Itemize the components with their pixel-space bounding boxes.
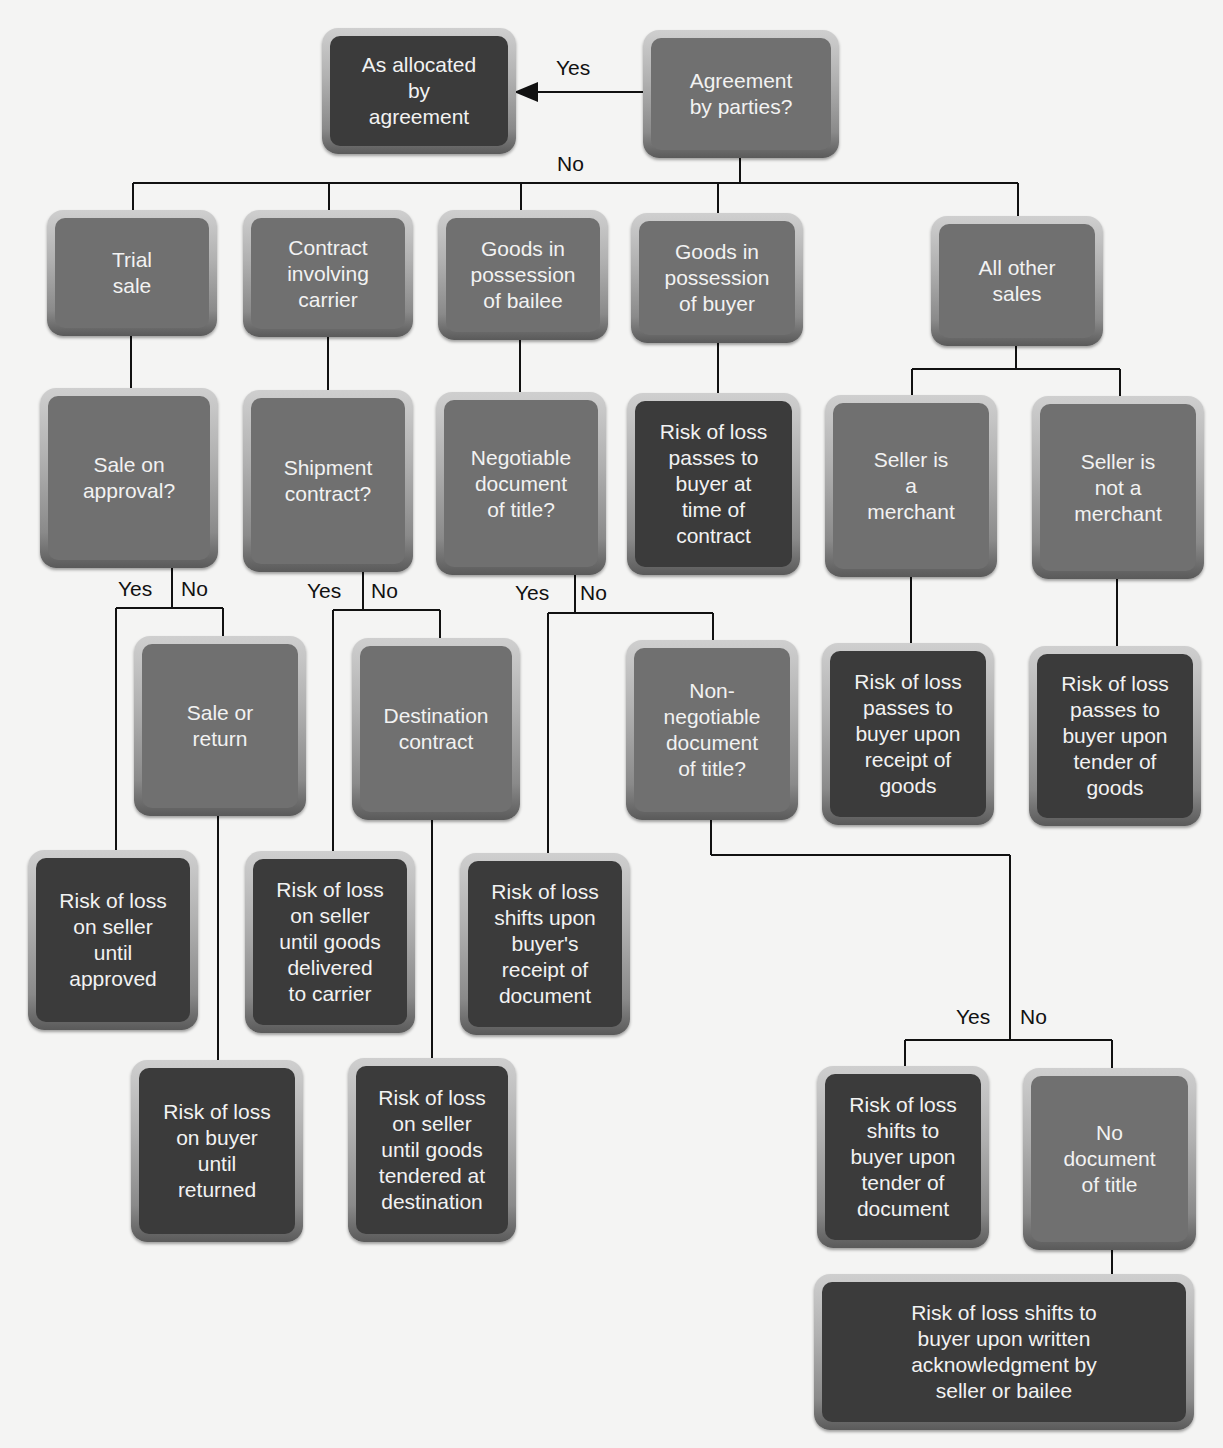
node-goods-buyer: Goods in possession of buyer	[631, 213, 803, 343]
node-risk-seller-until-carrier: Risk of loss on seller until goods deliv…	[245, 851, 415, 1033]
node-risk-time-of-contract: Risk of loss passes to buyer at time of …	[627, 393, 800, 575]
node-risk-buyer-until-returned: Risk of loss on buyer until returned	[131, 1060, 303, 1242]
node-risk-receipt-of-document: Risk of loss shifts upon buyer's receipt…	[460, 853, 630, 1035]
node-sale-or-return: Sale or return	[134, 636, 306, 816]
label-yes: Yes	[956, 1005, 990, 1029]
node-trial-sale: Trial sale	[47, 210, 217, 336]
node-contract-carrier: Contract involving carrier	[243, 210, 413, 337]
label-no: No	[181, 577, 208, 601]
node-negotiable-document: Negotiable document of title?	[436, 392, 606, 575]
node-no-document-of-title: No document of title	[1023, 1068, 1196, 1250]
node-seller-merchant: Seller is a merchant	[825, 395, 997, 577]
label-yes: Yes	[118, 577, 152, 601]
node-as-allocated: As allocated by agreement	[322, 28, 516, 154]
label-yes: Yes	[307, 579, 341, 603]
node-non-negotiable-document: Non- negotiable document of title?	[626, 640, 798, 820]
risk-of-loss-flowchart: Yes No Yes No Yes No Yes No Yes No As al…	[0, 0, 1223, 1448]
label-no: No	[580, 581, 607, 605]
node-shipment-contract: Shipment contract?	[243, 390, 413, 572]
node-risk-seller-destination: Risk of loss on seller until goods tende…	[348, 1058, 516, 1242]
label-no: No	[371, 579, 398, 603]
node-risk-tender-of-goods: Risk of loss passes to buyer upon tender…	[1029, 646, 1201, 826]
node-risk-receipt-of-goods: Risk of loss passes to buyer upon receip…	[822, 643, 994, 825]
label-yes: Yes	[515, 581, 549, 605]
node-goods-bailee: Goods in possession of bailee	[438, 210, 608, 340]
node-risk-seller-until-approved: Risk of loss on seller until approved	[28, 850, 198, 1030]
label-no: No	[557, 152, 584, 176]
node-destination-contract: Destination contract	[352, 638, 520, 820]
node-sale-on-approval: Sale on approval?	[40, 388, 218, 568]
label-yes: Yes	[556, 56, 590, 80]
label-no: No	[1020, 1005, 1047, 1029]
node-risk-tender-of-document: Risk of loss shifts to buyer upon tender…	[817, 1066, 989, 1248]
node-seller-not-merchant: Seller is not a merchant	[1032, 396, 1204, 579]
node-agreement-question: Agreement by parties?	[643, 30, 839, 158]
node-risk-written-acknowledgment: Risk of loss shifts to buyer upon writte…	[814, 1274, 1194, 1430]
node-all-other-sales: All other sales	[931, 216, 1103, 346]
